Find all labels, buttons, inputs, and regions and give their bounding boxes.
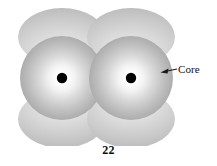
figure-caption-number: 22 [0,143,217,157]
core-label: Core [178,63,200,75]
left-nucleus [57,73,67,83]
right-nucleus [126,73,136,83]
figure-container: Core 22 [0,0,217,166]
orbital-diagram: Core [0,0,217,146]
